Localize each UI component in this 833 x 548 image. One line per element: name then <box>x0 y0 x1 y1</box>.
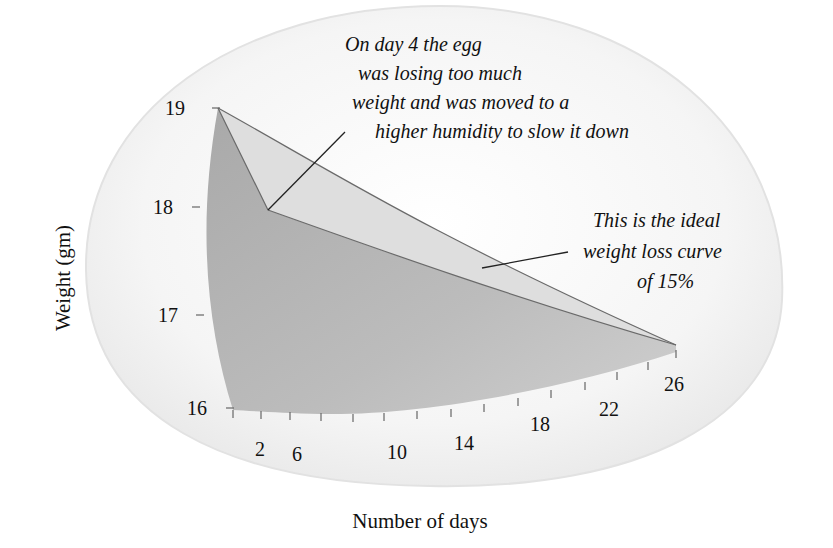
note1-line1: On day 4 the egg <box>345 33 482 56</box>
note1-line3: weight and was moved to a <box>352 91 569 114</box>
x-tick-26: 26 <box>664 373 684 395</box>
x-tick-22: 22 <box>599 398 619 420</box>
y-axis-title: Weight (gm) <box>51 225 75 331</box>
y-tick-19: 19 <box>165 97 185 119</box>
y-tick-18: 18 <box>153 196 173 218</box>
note2-line2: weight loss curve <box>583 240 722 263</box>
egg-weight-chart: 19 18 17 16 2 6 10 14 18 22 26 Weight (g… <box>0 0 833 548</box>
note1-line4: higher humidity to slow it down <box>375 120 629 143</box>
x-tick-2: 2 <box>255 438 265 460</box>
y-tick-17: 17 <box>158 304 178 326</box>
note1-line2: was losing too much <box>358 62 522 85</box>
note2-line3: of 15% <box>637 270 694 293</box>
x-tick-18: 18 <box>530 413 550 435</box>
note2-line1: This is the ideal <box>593 209 721 231</box>
x-axis-title: Number of days <box>352 509 487 533</box>
x-tick-6: 6 <box>292 443 302 465</box>
y-tick-16: 16 <box>187 397 207 419</box>
x-tick-14: 14 <box>454 432 474 454</box>
x-tick-10: 10 <box>387 441 407 463</box>
